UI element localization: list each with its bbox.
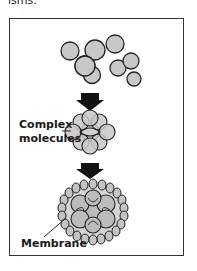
complex-label-line1: Complex [19, 118, 81, 132]
complex-molecules-label: Complex molecules [19, 118, 81, 146]
membrane-cluster [58, 179, 128, 245]
simple-molecules [61, 35, 141, 86]
complex-label-line2: molecules [19, 132, 81, 146]
arrow-down-icon [76, 93, 104, 111]
membrane-label: Membrane [21, 237, 87, 251]
arrow-down-icon-2 [76, 163, 104, 179]
